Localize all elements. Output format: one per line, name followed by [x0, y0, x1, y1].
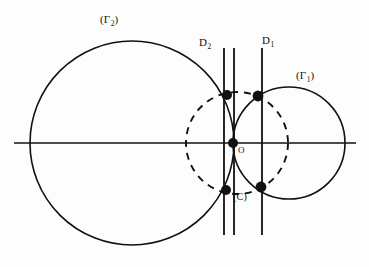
point-origin: [228, 138, 238, 148]
label-circle-c: (C): [233, 192, 247, 202]
label-origin: O: [238, 146, 245, 155]
label-gamma2-open: (Γ: [100, 13, 110, 25]
point-upper-right: [253, 91, 264, 102]
label-d1: D1: [262, 35, 274, 46]
point-lower-right: [256, 182, 267, 193]
label-d1-subscript: 1: [271, 40, 275, 49]
label-gamma2-subscript: 2: [111, 19, 115, 28]
label-gamma2: (Γ2): [100, 14, 118, 25]
point-lower-left: [221, 185, 231, 195]
geometry-canvas: [0, 0, 369, 267]
label-d2-letter: D: [199, 36, 207, 48]
label-gamma1-subscript: 1: [307, 75, 311, 84]
label-d2-subscript: 2: [208, 42, 212, 51]
label-d2: D2: [199, 37, 211, 48]
label-gamma1: (Γ1): [296, 70, 314, 81]
label-gamma1-open: (Γ: [296, 69, 306, 81]
point-upper-left: [222, 90, 232, 100]
label-d1-letter: D: [262, 34, 270, 46]
geometry-figure: (Γ2) (Γ1) D2 D1 O (C): [0, 0, 369, 267]
